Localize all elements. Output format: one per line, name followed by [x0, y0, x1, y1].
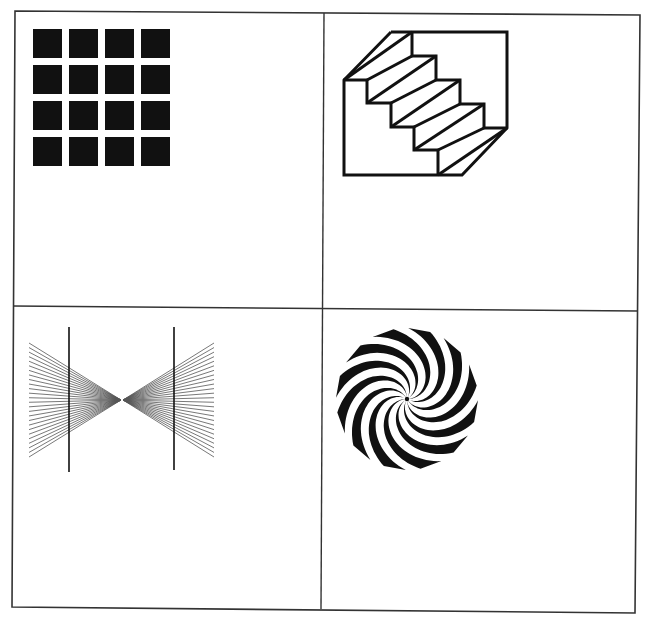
- grid-square: [69, 65, 98, 94]
- figure-canvas: Hermann grid illusion Schroeder staircas…: [0, 0, 648, 620]
- spiral-disk-figure: Fraser spiral / twisted disk: [336, 328, 478, 470]
- right-fan-ray: [123, 343, 214, 400]
- schroeder-staircase-figure: Schroeder staircase illusion: [344, 32, 507, 175]
- vertical-divider: [321, 13, 324, 609]
- grid-square: [33, 101, 62, 130]
- panel-frame: [10, 11, 640, 617]
- right-fan-ray: [123, 352, 214, 400]
- grid-square: [105, 101, 134, 130]
- horizontal-divider: [13, 306, 638, 311]
- grid-square: [141, 65, 170, 94]
- grid-square: [141, 101, 170, 130]
- grid-square: [141, 137, 170, 166]
- right-fan-ray: [123, 400, 214, 430]
- grid-square: [105, 65, 134, 94]
- right-fan-ray: [123, 370, 214, 400]
- grid-square: [69, 137, 98, 166]
- grid-square: [33, 29, 62, 58]
- grid-square: [105, 137, 134, 166]
- left-fan-ray: [29, 370, 121, 400]
- hering-fan-figure: Hering illusion: [29, 327, 214, 472]
- grid-square: [105, 29, 134, 58]
- hermann-grid-figure: Hermann grid illusion: [33, 29, 170, 166]
- grid-square: [69, 29, 98, 58]
- grid-square: [69, 101, 98, 130]
- staircase-front-steps: [344, 80, 438, 175]
- spiral-center: [405, 397, 409, 401]
- left-fan-ray: [29, 343, 121, 400]
- grid-square: [33, 137, 62, 166]
- right-fan-ray: [123, 400, 214, 457]
- left-fan-ray: [29, 400, 121, 448]
- grid-square: [33, 65, 62, 94]
- grid-square: [141, 29, 170, 58]
- left-fan-ray: [29, 400, 121, 457]
- right-fan-ray: [123, 400, 214, 448]
- left-fan-ray: [29, 352, 121, 400]
- left-fan-ray: [29, 400, 121, 430]
